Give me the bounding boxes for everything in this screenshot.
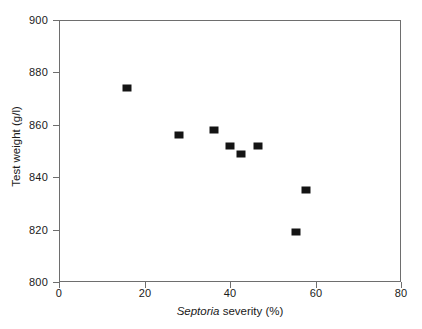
y-tick-label: 800 — [8, 277, 48, 288]
y-tick-mark — [53, 72, 59, 73]
x-axis-title-rest: severity (%) — [219, 305, 283, 317]
y-tick-mark — [53, 20, 59, 21]
x-axis-title: Septoria severity (%) — [59, 305, 401, 318]
x-tick-label: 20 — [125, 288, 165, 299]
x-tick-label: 0 — [39, 288, 79, 299]
y-axis-title: Test weight (g/l) — [10, 16, 23, 278]
x-tick-label: 80 — [381, 288, 421, 299]
y-tick-mark — [53, 125, 59, 126]
x-tick-label: 40 — [210, 288, 250, 299]
y-tick-mark — [53, 230, 59, 231]
scatter-plot-figure: 900880860840820800 020406080 Septoria se… — [0, 0, 422, 329]
y-tick-mark — [53, 177, 59, 178]
plot-frame — [59, 20, 401, 282]
x-tick-label: 60 — [296, 288, 336, 299]
x-axis-title-genus: Septoria — [177, 305, 220, 317]
